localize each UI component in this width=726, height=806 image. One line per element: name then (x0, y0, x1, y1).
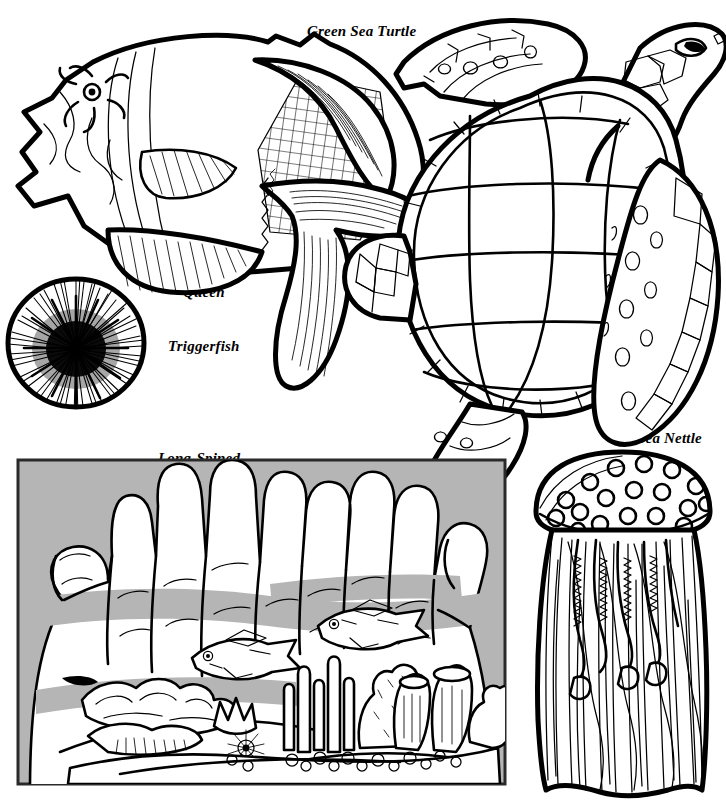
illustration-green-sea-turtle (345, 21, 726, 524)
coral-lettuce-lower (88, 724, 202, 755)
turtle-eye (676, 39, 706, 56)
illustration-sea-nettle (536, 452, 713, 796)
artwork-canvas (0, 0, 726, 806)
illustration-hands-reef (18, 460, 519, 790)
turtle-flipper-side-left (345, 235, 416, 320)
illustration-page: Green Sea Turtle Queen Triggerfish Long-… (0, 0, 726, 806)
nettle-tentacle-mass (538, 530, 707, 796)
illustration-black-urchin (8, 276, 144, 416)
